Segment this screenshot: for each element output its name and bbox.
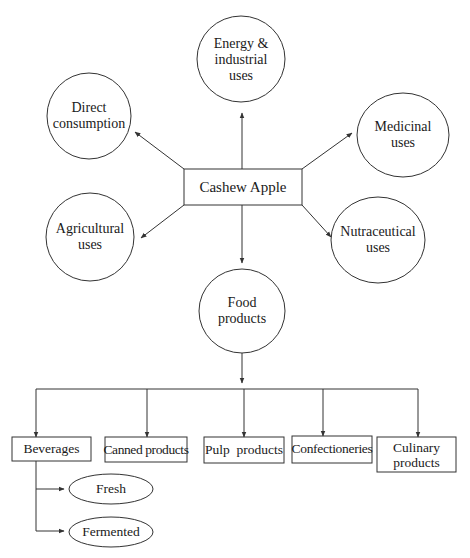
label-line: Direct — [72, 100, 107, 116]
label-line: products — [393, 455, 440, 470]
label-pulp: Pulp products — [204, 437, 284, 463]
label-line: Energy & — [214, 36, 269, 52]
label-confectioneries: Confectioneries — [292, 436, 372, 462]
label-canned: Canned products — [105, 437, 187, 462]
label-fermented: Fermented — [69, 517, 153, 547]
arrow-to-agricultural — [141, 205, 184, 238]
label-line: uses — [391, 135, 415, 151]
cashew-apple-diagram: Energy & industrial uses Direct consumpt… — [0, 0, 470, 558]
label-line: products — [218, 311, 266, 327]
label-line: uses — [78, 237, 102, 253]
label-fresh: Fresh — [69, 474, 153, 504]
label-energy: Energy & industrial uses — [197, 17, 285, 102]
label-beverages: Beverages — [12, 437, 91, 461]
label-culinary: Culinary products — [377, 437, 456, 472]
label-direct: Direct consumption — [47, 73, 131, 159]
label-line: Nutraceutical — [340, 224, 415, 240]
label-line: Cashew Apple — [199, 179, 286, 195]
label-line: consumption — [53, 116, 125, 132]
label-line: Confectioneries — [292, 441, 373, 457]
label-line: uses — [229, 68, 253, 84]
label-line: Fermented — [82, 524, 140, 540]
label-line: Culinary — [393, 440, 440, 455]
label-line: uses — [366, 240, 390, 256]
arrow-to-medicinal — [302, 133, 352, 169]
label-line: Beverages — [23, 441, 79, 457]
label-line: Canned products — [103, 442, 188, 458]
label-line: Agricultural — [56, 221, 124, 237]
label-food: Food products — [199, 269, 285, 353]
label-line: Medicinal — [375, 119, 432, 135]
arrow-to-direct — [135, 132, 184, 169]
label-cashew-apple: Cashew Apple — [184, 169, 302, 205]
label-line: Pulp products — [205, 442, 283, 458]
label-line: industrial — [215, 52, 268, 68]
label-line: Fresh — [96, 481, 126, 497]
label-medicinal: Medicinal uses — [357, 93, 449, 177]
label-nutraceutical: Nutraceutical uses — [331, 197, 425, 283]
label-agricultural: Agricultural uses — [46, 193, 134, 281]
arrow-to-nutraceutical — [302, 205, 331, 237]
label-line: Food — [228, 295, 257, 311]
